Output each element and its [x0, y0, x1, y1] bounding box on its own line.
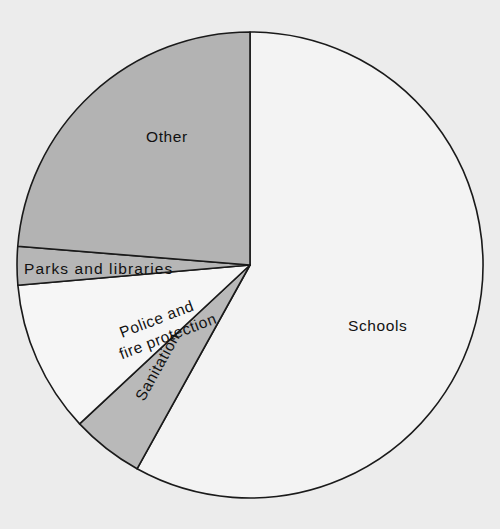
pie-chart-canvas: SchoolsSanitationPolice andfire protecti… — [0, 0, 500, 529]
pie-slice-label-parks-and-libraries: Parks and libraries — [24, 260, 173, 277]
pie-chart-figure: SchoolsSanitationPolice andfire protecti… — [0, 0, 500, 529]
pie-slice-label-other: Other — [146, 128, 188, 145]
pie-slice-label-schools: Schools — [348, 317, 407, 334]
